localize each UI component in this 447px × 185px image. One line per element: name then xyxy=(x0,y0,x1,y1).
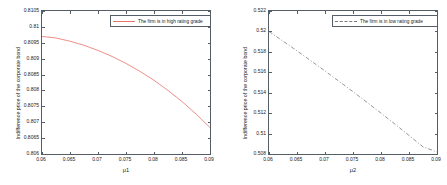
y-tick-label: 0.52 xyxy=(256,27,266,33)
x-tick-mark xyxy=(269,152,270,155)
legend-line xyxy=(113,21,135,23)
x-tick-mark xyxy=(269,11,270,14)
y-tick-mark xyxy=(42,122,45,123)
y-tick-mark xyxy=(269,134,272,135)
x-tick-mark xyxy=(381,11,382,14)
curve-low-rating xyxy=(269,11,439,156)
y-tick-label: 0.8085 xyxy=(24,71,39,77)
y-tick-label: 0.8065 xyxy=(24,134,39,140)
y-tick-label: 0.51 xyxy=(256,130,266,136)
y-tick-mark xyxy=(208,122,211,123)
y-tick-label: 0.512 xyxy=(253,109,266,115)
x-tick-label: 0.08 xyxy=(375,156,385,162)
y-tick-label: 0.8095 xyxy=(24,39,39,45)
y-tick-label: 0.518 xyxy=(253,48,266,54)
x-tick-mark xyxy=(70,152,71,155)
x-axis-title-left: μ1 xyxy=(41,167,211,173)
legend-label-low: The firm is in low rating grade xyxy=(360,19,423,24)
y-tick-label: 0.81 xyxy=(29,23,39,29)
x-tick-label: 0.075 xyxy=(346,156,359,162)
y-tick-label: 0.514 xyxy=(253,89,266,95)
x-tick-label: 0.06 xyxy=(263,156,273,162)
legend-label-high: The firm is in high rating grade xyxy=(138,19,203,24)
x-tick-mark xyxy=(182,11,183,14)
legend-high-rating[interactable]: The firm is in high rating grade xyxy=(110,15,211,27)
x-tick-mark xyxy=(70,11,71,14)
y-tick-label: 0.809 xyxy=(26,55,39,61)
x-tick-mark xyxy=(409,152,410,155)
x-tick-label: 0.08 xyxy=(148,156,158,162)
y-tick-mark xyxy=(435,113,438,114)
chart-panel-high-rating: Indifference price of the corporate bond… xyxy=(0,0,223,185)
y-tick-mark xyxy=(42,43,45,44)
x-tick-mark xyxy=(409,11,410,14)
figure-container: Indifference price of the corporate bond… xyxy=(0,0,447,185)
legend-line-sample-low xyxy=(335,18,357,25)
x-axis-title-right: μ2 xyxy=(268,167,438,173)
x-tick-mark xyxy=(126,152,127,155)
y-tick-mark xyxy=(42,59,45,60)
x-tick-mark xyxy=(437,152,438,155)
y-tick-label: 0.807 xyxy=(26,118,39,124)
x-tick-label: 0.065 xyxy=(63,156,76,162)
x-tick-mark xyxy=(182,152,183,155)
legend-line-sample-high xyxy=(113,18,135,25)
y-tick-label: 0.8105 xyxy=(24,7,39,13)
y-tick-mark xyxy=(269,154,272,155)
x-tick-label: 0.075 xyxy=(119,156,132,162)
x-tick-mark xyxy=(381,152,382,155)
x-tick-label: 0.065 xyxy=(290,156,303,162)
x-tick-mark xyxy=(98,152,99,155)
y-tick-mark xyxy=(208,90,211,91)
y-tick-mark xyxy=(42,154,45,155)
data-line xyxy=(42,36,210,127)
y-axis-title-left: Indifference price of the corporate bond xyxy=(15,23,21,163)
y-tick-mark xyxy=(208,154,211,155)
x-tick-mark xyxy=(98,11,99,14)
y-tick-mark xyxy=(42,27,45,28)
y-tick-mark xyxy=(42,138,45,139)
y-tick-mark xyxy=(42,75,45,76)
y-tick-label: 0.516 xyxy=(253,68,266,74)
x-tick-label: 0.07 xyxy=(92,156,102,162)
x-tick-label: 0.07 xyxy=(319,156,329,162)
y-tick-mark xyxy=(435,134,438,135)
y-tick-mark xyxy=(208,27,211,28)
data-line xyxy=(269,31,437,152)
y-tick-mark xyxy=(208,59,211,60)
x-tick-mark xyxy=(126,11,127,14)
y-tick-mark xyxy=(435,154,438,155)
y-axis-title-right: Indifference price of the corporate bond xyxy=(242,23,248,163)
legend-low-rating[interactable]: The firm is in low rating grade xyxy=(332,15,438,27)
y-tick-label: 0.522 xyxy=(253,7,266,13)
curve-high-rating xyxy=(42,11,212,156)
x-tick-mark xyxy=(437,11,438,14)
y-tick-mark xyxy=(269,113,272,114)
x-tick-mark xyxy=(154,11,155,14)
x-tick-mark xyxy=(297,152,298,155)
x-tick-mark xyxy=(154,152,155,155)
x-tick-label: 0.06 xyxy=(36,156,46,162)
x-tick-label: 0.085 xyxy=(402,156,415,162)
y-tick-mark xyxy=(208,138,211,139)
y-tick-mark xyxy=(435,93,438,94)
x-tick-mark xyxy=(297,11,298,14)
y-tick-mark xyxy=(269,72,272,73)
y-tick-mark xyxy=(208,43,211,44)
y-tick-mark xyxy=(42,90,45,91)
y-tick-mark xyxy=(435,52,438,53)
x-tick-label: 0.085 xyxy=(175,156,188,162)
y-tick-mark xyxy=(208,106,211,107)
y-tick-mark xyxy=(42,106,45,107)
plot-area-right xyxy=(268,10,438,155)
y-tick-label: 0.8075 xyxy=(24,102,39,108)
y-tick-mark xyxy=(435,72,438,73)
x-tick-mark xyxy=(210,152,211,155)
legend-line xyxy=(335,21,357,23)
x-tick-mark xyxy=(353,152,354,155)
x-tick-label: 0.09 xyxy=(431,156,441,162)
y-tick-mark xyxy=(269,93,272,94)
y-tick-mark xyxy=(435,31,438,32)
x-tick-mark xyxy=(325,152,326,155)
chart-panel-low-rating: Indifference price of the corporate bond… xyxy=(223,0,447,185)
